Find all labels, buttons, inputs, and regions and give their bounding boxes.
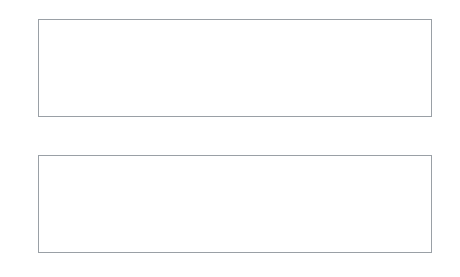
- matlab-figure-window: [0, 0, 460, 277]
- firings-scatter-series: [0, 140, 460, 277]
- stimulation-line-series: [0, 0, 460, 140]
- stimulation-factor-panel: [0, 0, 460, 140]
- firings-panel: [0, 140, 460, 277]
